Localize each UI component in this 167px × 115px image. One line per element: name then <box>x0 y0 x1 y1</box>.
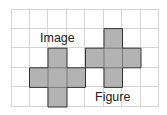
figure-label: Figure <box>95 91 130 104</box>
image-label: Image <box>40 32 75 45</box>
image-cross-shape <box>30 48 86 107</box>
figure-cross-shape <box>86 29 142 88</box>
shapes-layer <box>0 0 167 115</box>
